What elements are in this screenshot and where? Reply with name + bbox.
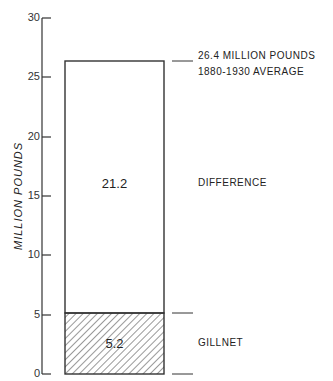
y-tick-5: 5 bbox=[18, 308, 40, 320]
y-tick-25: 25 bbox=[18, 70, 40, 82]
gillnet-value: 5.2 bbox=[65, 336, 164, 351]
y-axis-label: MILLION POUNDS bbox=[12, 142, 24, 250]
difference-label: DIFFERENCE bbox=[198, 177, 267, 188]
total-label-line1: 26.4 MILLION POUNDS bbox=[198, 50, 315, 61]
y-tick-20: 20 bbox=[18, 130, 40, 142]
difference-value: 21.2 bbox=[65, 176, 164, 191]
total-label-line2: 1880-1930 AVERAGE bbox=[198, 66, 304, 77]
y-tick-30: 30 bbox=[18, 11, 40, 23]
gillnet-label: GILLNET bbox=[198, 337, 243, 348]
y-tick-0: 0 bbox=[18, 367, 40, 379]
